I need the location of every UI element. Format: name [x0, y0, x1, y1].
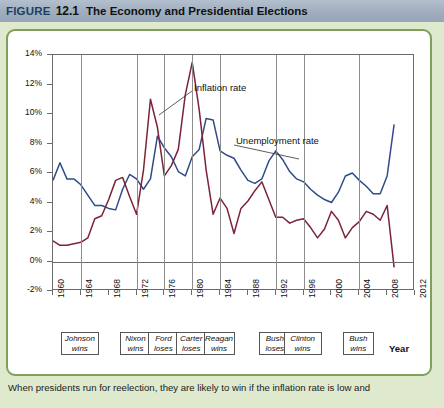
chart-panel: 14%12%10%8%6%4%2%0%-2% 19601964196819721…: [6, 29, 432, 376]
figure-word: FIGURE: [6, 5, 51, 17]
leader-lines: [8, 31, 434, 378]
figure-header: FIGURE 12.1 The Economy and Presidential…: [0, 0, 444, 22]
figure-number: 12.1: [56, 4, 79, 18]
figure-title: The Economy and Presidential Elections: [86, 5, 308, 17]
figure-root: FIGURE 12.1 The Economy and Presidential…: [0, 0, 444, 408]
figure-caption: When presidents run for reelection, they…: [8, 382, 440, 394]
